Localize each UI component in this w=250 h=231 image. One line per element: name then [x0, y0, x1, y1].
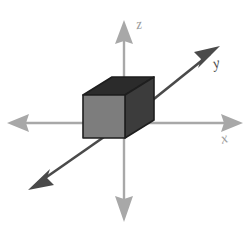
shaded-rectangular-box: [83, 77, 154, 138]
figure-canvas: z y x: [0, 0, 250, 231]
z-axis-arrowhead-positive: [115, 20, 133, 44]
y-axis-arrowhead-negative: [28, 169, 54, 190]
z-axis-arrowhead-negative: [115, 196, 133, 222]
x-axis-arrowhead-negative: [7, 114, 29, 132]
axes-and-box-diagram: [0, 0, 250, 231]
box-front-face: [83, 95, 125, 138]
